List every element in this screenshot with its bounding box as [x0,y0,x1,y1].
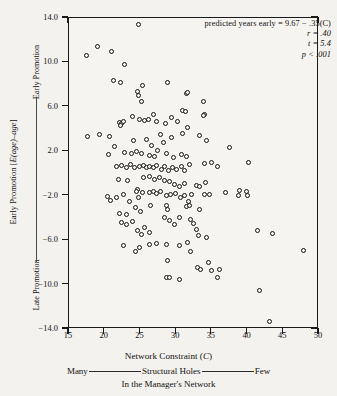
data-point [108,198,113,203]
data-point [236,193,241,198]
data-point [142,225,147,230]
annotation-equation: predicted years early = 9.67 − .35(C) [205,19,331,29]
data-point [206,260,211,265]
data-point [255,228,260,233]
scale-left-rule [89,371,141,372]
data-point [182,181,187,186]
x-tick-label: 40 [232,331,262,340]
data-point [187,203,192,208]
x-tick-label: 15 [53,331,83,340]
data-point [267,319,272,324]
data-point [223,190,228,195]
data-point [127,199,132,204]
regression-annotation: predicted years early = 9.67 − .35(C) r … [205,19,331,60]
scale-right-label: Few [255,366,271,376]
data-point [202,192,207,197]
data-point [136,195,141,200]
data-point [237,188,242,193]
data-point [185,240,190,245]
data-point [134,189,139,194]
x-tick-label: 50 [303,331,333,340]
data-point [209,160,214,165]
x-tick-label: 20 [89,331,119,340]
data-point [169,135,174,140]
data-point [198,267,203,272]
data-point [185,125,190,130]
data-point [151,112,156,117]
data-point [114,164,119,169]
data-point [163,121,168,126]
data-point [188,249,193,254]
data-point [183,109,188,114]
data-point [147,230,152,235]
data-point [148,203,153,208]
data-point [162,178,167,183]
data-point [161,140,166,145]
data-point [165,258,170,263]
data-point [197,133,202,138]
data-point [203,180,208,185]
data-point [118,123,123,128]
data-point [140,83,145,88]
data-point [215,275,220,280]
early-promotion-direction-label: Early Promotion [32,45,41,99]
data-point [173,191,178,196]
data-point [172,222,177,227]
annotation-p: p < .001 [205,50,331,60]
data-point [182,168,187,173]
data-point [257,288,262,293]
data-point [146,117,151,122]
x-tick-label: 35 [196,331,226,340]
data-point [111,78,116,83]
data-point [84,53,89,58]
x-tick-label: 45 [267,331,297,340]
data-point [227,145,232,150]
data-point [147,174,152,179]
data-point [158,132,163,137]
data-point [180,131,185,136]
y-tick-label: −6.0 [43,235,58,244]
data-points-layer [69,18,317,327]
x-tick-label: 25 [124,331,154,340]
data-point [112,144,117,149]
data-point [177,215,182,220]
data-point [97,132,102,137]
data-point [147,242,152,247]
scatter-plot-figure: Early Promotion [E(age)–age] Early Promo… [0,0,337,396]
data-point [139,99,144,104]
data-point [124,222,129,227]
x-axis-subtitle: In the Manager's Network [0,379,337,389]
data-point [301,248,306,253]
data-point [121,192,126,197]
data-point [169,115,174,120]
y-tick-label: 2.0 [48,146,58,155]
data-point [201,99,206,104]
data-point [191,221,196,226]
data-point [246,160,251,165]
data-point [217,267,222,272]
data-point [140,190,145,195]
data-point [139,151,144,156]
data-point [157,175,162,180]
data-point [139,232,144,237]
data-point [138,209,143,214]
data-point [204,235,209,240]
data-point [154,119,159,124]
x-axis-title: Network Constraint (C) [0,351,337,361]
data-point [129,151,134,156]
data-point [85,134,90,139]
data-point [137,245,142,250]
data-point [197,184,202,189]
plot-area [68,17,318,328]
annotation-t: t = 5.4 [205,39,331,49]
data-point [162,215,167,220]
scale-right-rule [202,371,254,372]
data-point [125,178,130,183]
late-promotion-rule [36,196,37,262]
data-point [118,80,123,85]
annotation-r: r = .40 [205,29,331,39]
data-point [136,93,141,98]
data-point [116,177,121,182]
structural-holes-scale: ManyStructural HolesFew [0,366,337,376]
data-point [177,277,182,282]
